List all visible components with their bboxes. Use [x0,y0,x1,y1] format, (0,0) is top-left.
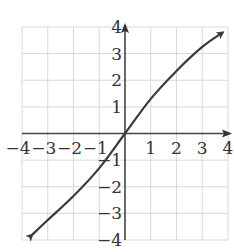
x-tick-label: −2 [57,138,82,158]
function-graph: −4−3−2−112344321−1−2−3−4 [0,0,234,252]
y-tick-label: 4 [111,17,122,37]
y-tick-label: −4 [97,230,122,250]
y-tick-label: 1 [111,97,122,117]
x-tick-label: −4 [5,138,30,158]
x-tick-label: 2 [171,138,182,158]
y-tick-label: −2 [97,177,122,197]
x-tick-label: 4 [223,138,234,158]
y-tick-label: 2 [111,70,122,90]
y-tick-label: 3 [111,44,122,64]
x-tick-label: 3 [197,138,208,158]
x-tick-label: 1 [145,138,156,158]
x-tick-label: −3 [31,138,56,158]
y-tick-label: −3 [97,203,122,223]
